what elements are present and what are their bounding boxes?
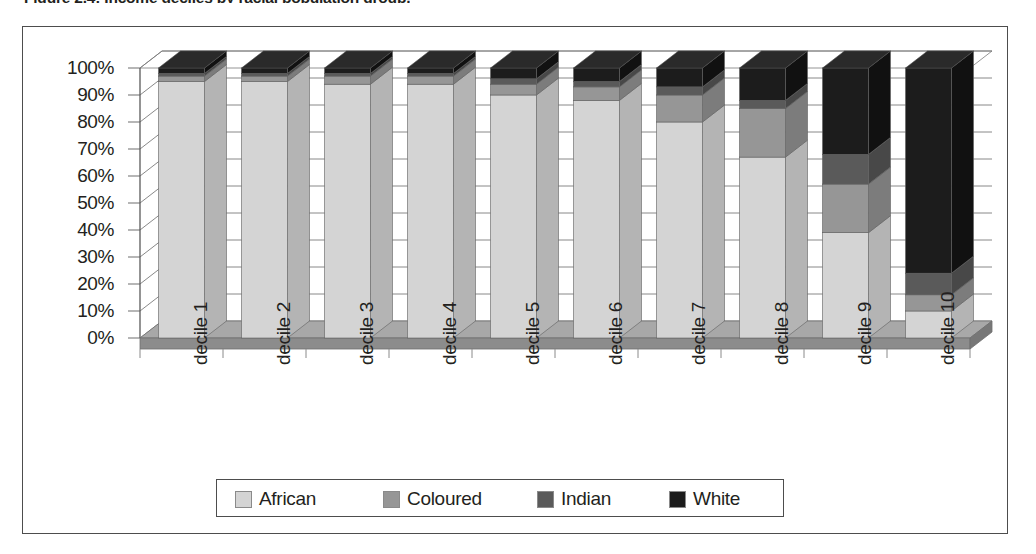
legend-label: White xyxy=(693,489,740,509)
x-axis-tick-label: decile 6 xyxy=(605,302,627,365)
chart-frame: 100%90%80%70%60%50%40%30%20%10%0% decile… xyxy=(22,26,1008,534)
legend-entry: Indian xyxy=(537,487,611,511)
x-axis-tick-label: decile 1 xyxy=(190,302,212,365)
legend-label: Indian xyxy=(561,489,611,509)
x-axis-tick-label: decile 2 xyxy=(273,302,295,365)
x-axis-tick-label: decile 5 xyxy=(522,302,544,365)
x-axis-tick-label: decile 7 xyxy=(688,302,710,365)
x-axis-tick-label: decile 3 xyxy=(356,302,378,365)
x-axis: decile 1decile 2decile 3decile 4decile 5… xyxy=(23,27,1009,535)
legend-label: Coloured xyxy=(407,489,482,509)
legend-entry: African xyxy=(235,487,316,511)
legend-entry: Coloured xyxy=(383,487,482,511)
x-axis-tick-label: decile 4 xyxy=(439,302,461,365)
chart-legend: AfricanColouredIndianWhite xyxy=(216,479,784,517)
x-axis-tick-label: decile 10 xyxy=(937,292,959,365)
legend-swatch-icon xyxy=(669,491,686,508)
legend-swatch-icon xyxy=(383,491,400,508)
x-axis-tick-label: decile 9 xyxy=(854,302,876,365)
x-axis-tick-label: decile 8 xyxy=(771,302,793,365)
legend-entry: White xyxy=(669,487,740,511)
legend-swatch-icon xyxy=(235,491,252,508)
figure-caption: Figure 2.4: Income deciles by racial pop… xyxy=(24,0,410,3)
legend-swatch-icon xyxy=(537,491,554,508)
legend-label: African xyxy=(259,489,316,509)
